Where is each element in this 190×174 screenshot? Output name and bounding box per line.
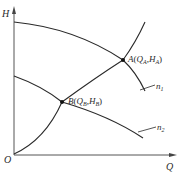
x-axis-label: Q <box>166 161 174 172</box>
pump-operating-point-diagram: H O Q n1 n2 A(QA,HA) B(QB,HB) <box>0 0 190 174</box>
operating-point-a <box>121 58 125 62</box>
n1-label: n1 <box>156 81 164 92</box>
point-b-label: B(QB,HB) <box>68 96 102 107</box>
y-axis-arrow-icon <box>12 6 16 14</box>
point-a-label: A(QA,HA) <box>127 54 162 65</box>
pump-curve-n2 <box>14 76 143 138</box>
n2-label: n2 <box>157 122 165 133</box>
n2-leader-line <box>138 127 156 132</box>
x-axis-arrow-icon <box>169 153 177 157</box>
y-axis-label: H <box>1 8 10 19</box>
operating-point-b <box>60 100 64 104</box>
system-curve <box>14 22 145 154</box>
origin-label: O <box>4 154 11 165</box>
